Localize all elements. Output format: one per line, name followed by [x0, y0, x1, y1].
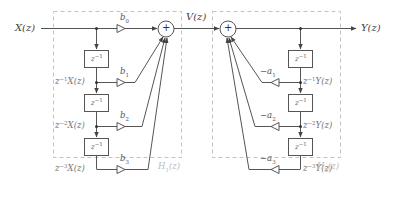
tap-label-x1: z−1X(z): [55, 77, 85, 86]
gain-label-b3: b3: [120, 154, 129, 165]
delay-label-right-1: z−1: [295, 54, 307, 63]
gain-label-a1: −a1: [260, 67, 276, 78]
h1-label: H1(z): [158, 162, 180, 173]
gain-b3-icon: [117, 166, 125, 174]
gain-label-b1: b1: [120, 67, 129, 78]
gain-label-a3: −a3: [260, 154, 276, 165]
gain-a3-icon: [271, 166, 279, 174]
intermediate-label: V(z): [186, 12, 206, 22]
delay-label-right-3: z−1: [295, 142, 307, 151]
tap-label-x3: z−3X(z): [55, 164, 85, 173]
gain-a2-icon: [271, 123, 279, 131]
sum-symbol-2: +: [224, 23, 232, 33]
gain-label-b0: b0: [120, 13, 129, 24]
tap-label-x2: z−2X(z): [55, 121, 85, 130]
tap-label-y1: z−1Y(z): [303, 77, 332, 86]
gain-b1-icon: [117, 79, 125, 87]
delay-label-left-1: z−1: [91, 54, 103, 63]
diagram-svg: [0, 0, 394, 206]
delay-label-left-2: z−1: [91, 98, 103, 107]
h2-label: H2(z): [317, 162, 339, 173]
output-label: Y(z): [361, 23, 381, 33]
delay-label-left-3: z−1: [91, 142, 103, 151]
filter-block-diagram: + + X(z) V(z) Y(z) z−1 z−1 z−1 z−1 z−1 z…: [0, 0, 394, 206]
gain-b0-icon: [117, 25, 125, 33]
input-label: X(z): [15, 23, 35, 33]
gain-label-a2: −a2: [260, 111, 276, 122]
gain-a1-icon: [271, 79, 279, 87]
sum-symbol-1: +: [162, 23, 170, 33]
delay-label-right-2: z−1: [295, 98, 307, 107]
gain-label-b2: b2: [120, 111, 129, 122]
tap-label-y2: z−2Y(z): [303, 121, 332, 130]
gain-b2-icon: [117, 123, 125, 131]
